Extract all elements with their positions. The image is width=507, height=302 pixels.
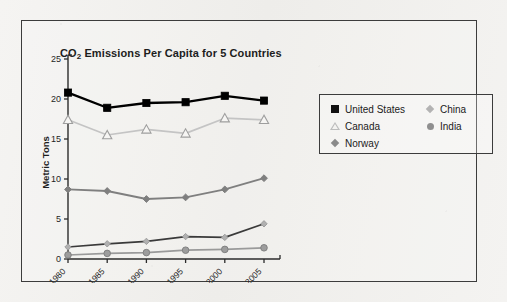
legend-item-china[interactable]: China: [424, 101, 466, 117]
chart-frame: CO2 Emissions Per Capita for 5 Countries…: [21, 20, 477, 282]
x-tick-label: 1980: [47, 266, 68, 283]
x-tick-label: 1985: [86, 266, 107, 283]
data-point-marker: [143, 249, 150, 256]
legend-marker-diamond-small-icon: [424, 102, 438, 116]
chart-legend: United StatesCanadaNorway ChinaIndia: [319, 94, 493, 154]
legend-item-united-states[interactable]: United States: [329, 101, 405, 117]
data-point-marker: [143, 238, 149, 244]
axis-layer: [64, 55, 280, 263]
data-point-marker: [65, 252, 72, 259]
data-point-marker: [104, 241, 110, 247]
data-point-marker: [222, 234, 228, 240]
legend-item-canada[interactable]: Canada: [329, 118, 405, 134]
data-point-marker: [221, 92, 228, 99]
data-point-marker: [65, 244, 71, 250]
series-canada: [63, 114, 268, 139]
data-point-marker: [261, 175, 268, 182]
data-point-marker: [221, 186, 228, 193]
data-point-marker: [182, 233, 188, 239]
legend-marker-circle-filled-icon: [424, 119, 438, 133]
data-point-marker: [261, 245, 268, 252]
data-point-marker: [143, 99, 150, 106]
data-point-marker: [182, 99, 189, 106]
y-tick-label: 0: [56, 254, 61, 264]
series-line: [68, 118, 264, 135]
series-united-states: [64, 89, 267, 111]
legend-column-left: United StatesCanadaNorway: [329, 101, 405, 152]
data-point-marker: [63, 115, 72, 123]
legend-item-label: India: [440, 121, 462, 132]
x-tick-label: 1990: [125, 266, 146, 283]
legend-marker-square-filled-icon: [329, 102, 343, 116]
legend-marker-triangle-open-icon: [329, 119, 343, 133]
data-point-marker: [182, 247, 189, 254]
legend-item-norway[interactable]: Norway: [329, 135, 405, 151]
data-point-marker: [104, 188, 111, 195]
data-point-marker: [222, 246, 229, 253]
series-layer: [63, 89, 268, 258]
y-tick-label: 10: [51, 174, 61, 184]
series-line: [68, 248, 264, 255]
series-line: [68, 224, 264, 247]
data-point-marker: [64, 89, 71, 96]
y-tick-label: 25: [51, 54, 61, 64]
y-tick-label: 20: [51, 94, 61, 104]
legend-marker-diamond-filled-icon: [329, 136, 343, 150]
series-china: [65, 221, 267, 251]
data-point-marker: [104, 104, 111, 111]
data-point-marker: [143, 196, 150, 203]
x-tick-label: 2005: [243, 266, 264, 283]
legend-column-right: ChinaIndia: [424, 101, 466, 135]
legend-item-label: Norway: [345, 138, 379, 149]
series-line: [68, 178, 264, 199]
data-point-marker: [182, 194, 189, 201]
legend-item-label: Canada: [345, 121, 380, 132]
series-line: [68, 93, 264, 108]
legend-item-label: China: [440, 104, 466, 115]
y-tick-label: 5: [56, 214, 61, 224]
x-tick-label: 1995: [165, 266, 186, 283]
series-india: [65, 245, 268, 259]
series-norway: [65, 175, 268, 203]
x-tick-label: 2000: [204, 266, 225, 283]
data-point-marker: [261, 221, 267, 227]
data-point-marker: [65, 186, 72, 193]
legend-item-label: United States: [345, 104, 405, 115]
data-point-marker: [260, 97, 267, 104]
legend-item-india[interactable]: India: [424, 118, 466, 134]
y-tick-label: 15: [51, 134, 61, 144]
data-point-marker: [104, 250, 111, 257]
